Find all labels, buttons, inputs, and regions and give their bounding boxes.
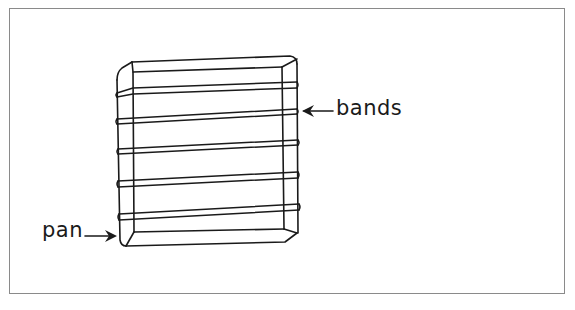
band-2 [116, 109, 298, 124]
band-3 [117, 140, 299, 154]
band-1 [116, 82, 298, 97]
pan-label: pan [42, 220, 83, 241]
pan-illustration [0, 0, 575, 310]
bands-label: bands [336, 98, 402, 119]
pan-arrow [85, 230, 117, 242]
band-5 [118, 204, 300, 220]
bands-arrow [302, 105, 333, 117]
bands-group [116, 82, 300, 220]
pan-body [117, 56, 298, 246]
band-4 [117, 172, 299, 187]
